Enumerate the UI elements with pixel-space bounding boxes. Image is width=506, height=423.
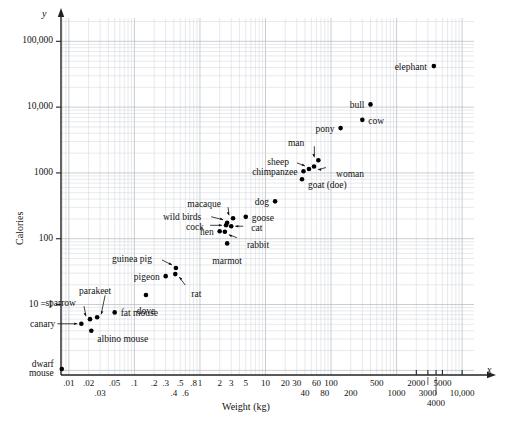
dp-pigeon-label: pigeon (134, 273, 160, 283)
x-tick-label-20: 20 (281, 379, 290, 388)
dp-elephant-label: elephant (395, 63, 427, 73)
x-tick-label-10000: 10,000 (450, 389, 475, 398)
x-tick-label-200: 200 (344, 389, 358, 398)
x-tick-label-10: 10 (261, 379, 270, 388)
dp-pony-label: pony (316, 125, 335, 135)
y-tick-label-2: 1000 (34, 168, 53, 178)
dp-dog-marker (273, 199, 278, 204)
dp-cow-label: cow (368, 117, 384, 127)
dp-wild-birds-label: wild birds (163, 213, 201, 223)
x-axis-title: Weight (kg) (222, 401, 270, 412)
dp-rat-marker (173, 272, 178, 277)
dp-guinea-pig-label: guinea pig (112, 255, 152, 265)
y-axis-arrowhead (58, 8, 64, 17)
dp-albino-mouse-label: albino mouse (97, 335, 148, 345)
dp-goat-doe-label: goat (doe) (308, 181, 347, 191)
dp-cat-label: cat (251, 224, 262, 234)
dp-goose-label: goose (252, 214, 274, 224)
dp-woman-marker (312, 164, 317, 169)
x-tick-label-01: .01 (63, 379, 74, 388)
dp-rabbit-label: rabbit (247, 241, 269, 251)
dp-sheep-marker (307, 167, 312, 172)
x-tick-label-100: 100 (324, 379, 338, 388)
dp-cat-leader-arrowhead (235, 225, 238, 228)
dp-dwarf-mouse-label: dwarf mouse (20, 360, 54, 379)
y-axis-variable: y (42, 8, 46, 19)
dp-macaque-marker (231, 216, 236, 221)
dp-bull-label: bull (350, 101, 365, 111)
x-tick-label-1: 1 (198, 379, 203, 388)
y-tick-label-1: 10,000 (27, 102, 53, 112)
dp-wild-birds-leader-arrowhead (220, 217, 223, 219)
dp-cat-marker (229, 224, 234, 229)
dp-cow-marker (360, 118, 365, 123)
dp-dwarf-mouse-marker (59, 367, 64, 372)
x-tick-label-3: .3 (162, 379, 169, 388)
dp-sparrow-label: sparrow (45, 299, 76, 309)
x-tick-label-1: .1 (131, 379, 138, 388)
x-tick-label-60: 60 (312, 379, 321, 388)
dp-pony-marker (338, 126, 343, 131)
x-tick-label-3000: 3000 (419, 389, 437, 398)
x-tick-label-4000: 4000 (427, 399, 445, 408)
dp-marmot-label: marmot (212, 257, 242, 267)
x-tick-label-2000: 2000 (407, 379, 425, 388)
dp-rabbit-leader-arrowhead (229, 235, 232, 238)
dp-marmot-marker (225, 241, 230, 246)
dp-bull-marker (368, 102, 373, 107)
dp-cock-label: cock (186, 223, 204, 233)
x-tick-label-8: .8 (190, 379, 197, 388)
dp-elephant-marker (432, 64, 437, 69)
dp-chimpanzee-label: chimpanzee (252, 168, 297, 178)
x-tick-label-40: 40 (300, 389, 309, 398)
dp-cock-leader-arrowhead (219, 224, 222, 227)
x-tick-label-4: .4 (170, 389, 177, 398)
x-tick-label-03: .03 (95, 389, 106, 398)
x-tick-label-02: .02 (83, 379, 94, 388)
x-tick-label-05: .05 (109, 379, 120, 388)
dp-dove-marker (144, 293, 149, 298)
y-tick-label-0: 100,000 (22, 36, 53, 46)
dp-guinea-pig-leader-arrowhead (169, 262, 172, 265)
x-tick-label-500: 500 (370, 379, 384, 388)
x-axis-variable: x (487, 364, 491, 375)
x-tick-label-2: .2 (151, 379, 158, 388)
dp-sheep-label: sheep (267, 158, 289, 168)
dp-albino-mouse-marker (89, 328, 94, 333)
dp-pigeon-marker (163, 274, 168, 279)
dp-macaque-leader-arrowhead (227, 212, 229, 215)
dp-man-leader-arrowhead (312, 154, 314, 157)
x-tick-label-1000: 1000 (388, 389, 406, 398)
y-axis-title: Calories (14, 212, 25, 245)
x-tick-label-5: .5 (177, 379, 184, 388)
dp-man-label: man (288, 139, 304, 149)
dp-macaque-label: macaque (187, 200, 221, 210)
y-tick-label-3: 100 (39, 234, 53, 244)
dp-goat-doe-marker (300, 177, 305, 182)
dp-wild-birds-marker (225, 220, 230, 225)
dp-guinea-pig-marker (174, 266, 179, 271)
x-tick-label-80: 80 (320, 389, 329, 398)
dp-chimpanzee-marker (301, 169, 306, 174)
dp-rat-label: rat (191, 290, 201, 300)
dp-rabbit-marker (223, 229, 228, 234)
calories-vs-weight-scatter-chart: 100,00010,000100010010 = 1.01.02.03.05.1… (0, 0, 506, 423)
x-tick-label-3: 3 (229, 379, 234, 388)
dp-dove-label: dove (137, 307, 155, 317)
dp-canary-leader-arrowhead (74, 323, 77, 326)
dp-parakeet-marker (95, 315, 100, 320)
dp-parakeet-leader-arrowhead (101, 311, 103, 314)
x-tick-label-5: 5 (244, 379, 249, 388)
dp-rat-leader-arrowhead (179, 277, 182, 280)
dp-canary-marker (79, 321, 84, 326)
dp-man-marker (316, 158, 321, 163)
dp-goose-marker (243, 215, 248, 220)
x-tick-label-5000: 5000 (433, 379, 451, 388)
dp-sheep-leader-arrowhead (302, 163, 305, 166)
x-tick-label-6: .6 (182, 389, 189, 398)
dp-sparrow-leader-arrowhead (84, 313, 86, 316)
dp-canary-label: canary (30, 320, 55, 330)
dp-hen-marker (217, 229, 222, 234)
dp-parakeet-label: parakeet (79, 287, 111, 297)
dp-sparrow-marker (88, 317, 93, 322)
